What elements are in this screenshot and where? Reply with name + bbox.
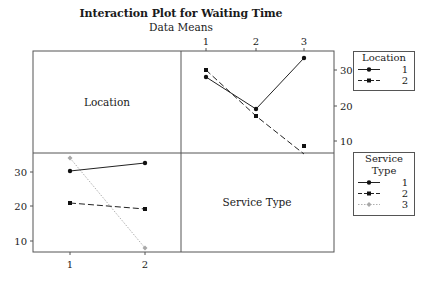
svg-text:10: 10 [340, 136, 353, 147]
interaction-plot-matrix: Location Service Type 1 2 3 30 20 10 3 [0, 0, 432, 288]
legend-item: 3 [354, 199, 414, 210]
legend-item: 1 [354, 64, 414, 75]
series-location-2 [204, 68, 306, 154]
svg-text:20: 20 [340, 101, 353, 112]
left-y-axis: 30 20 10 [14, 167, 33, 247]
top-x-axis: 1 2 3 [203, 36, 307, 51]
bottom-x-axis: 1 2 [67, 252, 148, 270]
svg-text:1: 1 [203, 36, 209, 47]
right-y-axis: 30 20 10 [334, 65, 353, 147]
legend-item: 2 [354, 75, 414, 86]
diag-label-location: Location [84, 96, 130, 108]
svg-text:20: 20 [14, 201, 27, 212]
legend-title: Location [354, 52, 414, 64]
series-location-1 [204, 56, 306, 111]
legend-location: Location 1 2 [353, 51, 415, 91]
plot-frame [33, 51, 334, 252]
legend-item: 1 [354, 177, 414, 188]
svg-text:1: 1 [67, 259, 73, 270]
diag-label-service-type: Service Type [222, 196, 291, 208]
legend-title-line1: Service [354, 153, 414, 165]
svg-text:30: 30 [340, 65, 353, 76]
legend-title-line2: Type [354, 165, 414, 177]
svg-text:30: 30 [14, 167, 27, 178]
legend-item: 2 [354, 188, 414, 199]
series-service-type-1 [68, 161, 147, 173]
svg-text:2: 2 [142, 259, 148, 270]
legend-service-type: Service Type 1 2 3 [353, 152, 415, 216]
svg-text:2: 2 [253, 36, 259, 47]
svg-text:10: 10 [14, 236, 27, 247]
svg-text:3: 3 [301, 36, 307, 47]
